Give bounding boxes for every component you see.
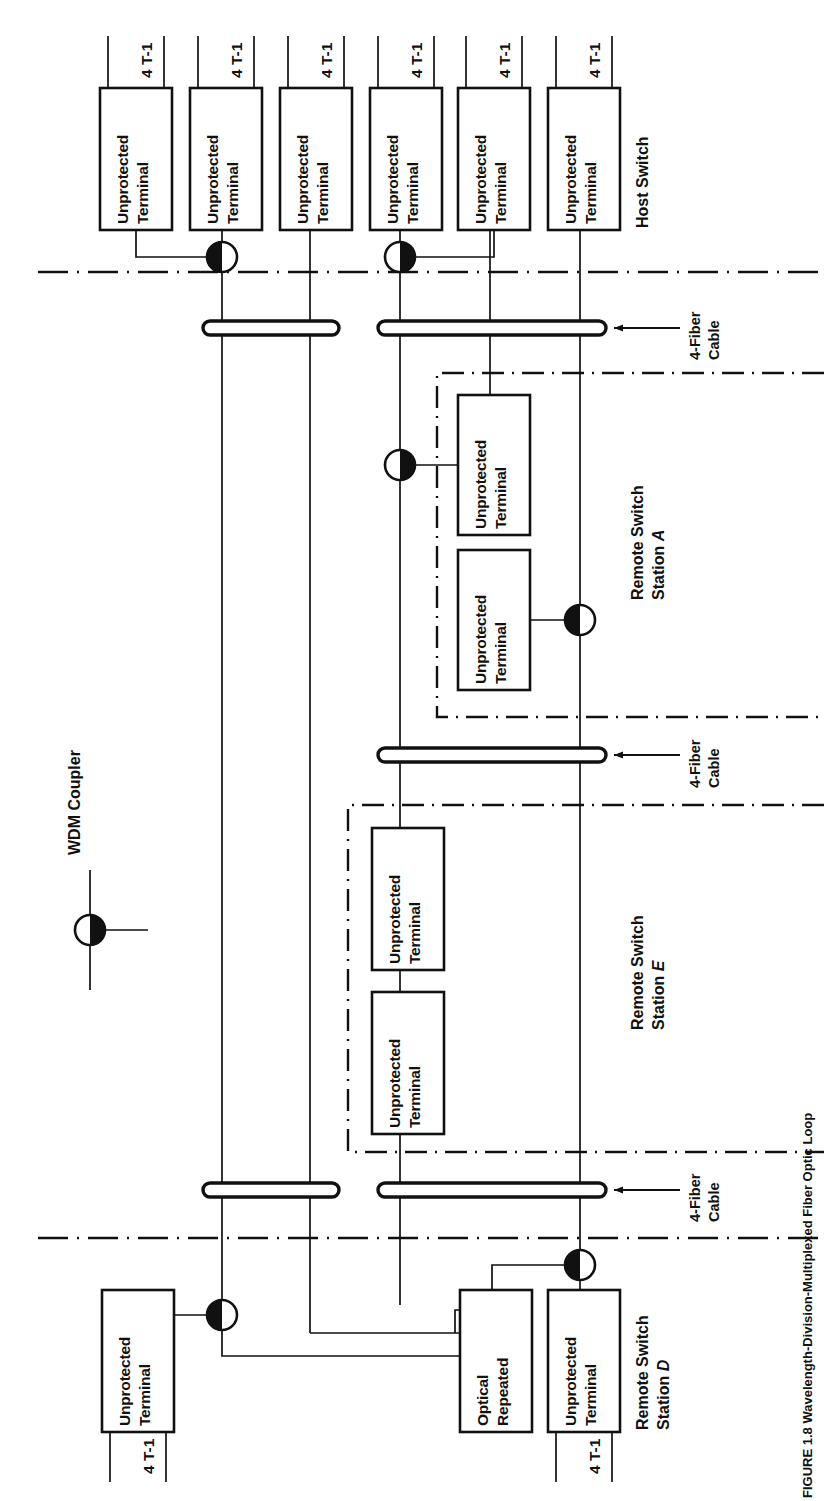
- cable-label-line1: 4-Fiber: [687, 1173, 703, 1222]
- t1-label: 4 T-1: [586, 42, 603, 78]
- terminal-label-line1: Unprotected: [472, 135, 489, 224]
- terminal-label-line1: Unprotected: [386, 875, 403, 964]
- station-label-letter: D: [655, 1359, 672, 1371]
- terminal-label-line1: Unprotected: [114, 135, 131, 224]
- cable-label-line2: Cable: [706, 749, 722, 789]
- terminal-box[interactable]: Unprotected Terminal: [458, 550, 530, 690]
- terminal-label-line2: Terminal: [406, 902, 423, 964]
- terminal-box[interactable]: Unprotected Terminal: [370, 88, 442, 230]
- terminal-label-line1: Unprotected: [384, 135, 401, 224]
- wdm-coupler[interactable]: [207, 1300, 237, 1330]
- terminal-box[interactable]: Unprotected Terminal: [102, 1290, 174, 1432]
- terminal-label-line2: Terminal: [404, 162, 421, 224]
- wdm-coupler[interactable]: [207, 242, 237, 272]
- terminal-label-line1: Unprotected: [386, 1039, 403, 1128]
- optical-repeater-box[interactable]: Optical Repeated: [460, 1290, 532, 1432]
- network-diagram: 4 T-1 4 T-1 4 T-1 4 T-1 4 T-1 4 T-1 Unpr…: [0, 0, 824, 1501]
- wdm-coupler[interactable]: [565, 1250, 595, 1280]
- terminal-box[interactable]: Unprotected Terminal: [548, 1290, 620, 1432]
- station-label-letter: A: [650, 530, 667, 543]
- cable-label-line2: Cable: [706, 1183, 722, 1223]
- terminal-label-line1: Unprotected: [472, 440, 489, 529]
- fiber-cable-pill[interactable]: [378, 748, 606, 762]
- terminal-label-line1: Unprotected: [562, 1337, 579, 1426]
- fiber-cable-pill[interactable]: [203, 1183, 339, 1197]
- terminal-label-line2: Terminal: [314, 162, 331, 224]
- terminal-label-line2: Terminal: [224, 162, 241, 224]
- terminal-box[interactable]: Unprotected Terminal: [372, 992, 444, 1134]
- terminal-label-line2: Terminal: [582, 1364, 599, 1426]
- fiber-cable-pill[interactable]: [203, 321, 339, 335]
- t1-label: 4 T-1: [140, 1438, 157, 1474]
- terminal-box[interactable]: Unprotected Terminal: [100, 88, 172, 230]
- terminal-box[interactable]: Unprotected Terminal: [190, 88, 262, 230]
- station-label-host: Host Switch: [634, 136, 651, 228]
- t1-label: 4 T-1: [496, 42, 513, 78]
- terminal-label-line1: Unprotected: [116, 1337, 133, 1426]
- station-label-prefix: Station: [650, 541, 667, 600]
- terminal-label-line2: Terminal: [136, 1364, 153, 1426]
- terminal-label-line2: Terminal: [134, 162, 151, 224]
- cable-label-line1: 4-Fiber: [687, 739, 703, 788]
- t1-label: 4 T-1: [586, 1438, 603, 1474]
- terminal-label-line2: Terminal: [406, 1066, 423, 1128]
- t1-label: 4 T-1: [318, 42, 335, 78]
- fiber-cable-pill[interactable]: [378, 321, 606, 335]
- figure-caption: FIGURE 1.8 Wavelength-Division-Multiplex…: [800, 1113, 815, 1498]
- terminal-box[interactable]: Unprotected Terminal: [458, 395, 530, 535]
- terminal-label-line1: Unprotected: [294, 135, 311, 224]
- terminal-label-line2: Terminal: [492, 622, 509, 684]
- terminal-label-line1: Unprotected: [472, 595, 489, 684]
- terminal-box[interactable]: Unprotected Terminal: [458, 88, 530, 230]
- legend-label-wdm-coupler: WDM Coupler: [66, 750, 83, 855]
- t1-label: 4 T-1: [408, 42, 425, 78]
- fiber-cable-pill[interactable]: [378, 1183, 606, 1197]
- terminal-box[interactable]: Unprotected Terminal: [548, 88, 620, 230]
- station-label-rss-e-line1: Remote Switch: [629, 915, 646, 1030]
- cable-label-line2: Cable: [706, 321, 722, 361]
- terminal-label-line1: Unprotected: [562, 135, 579, 224]
- figure-caption-text: FIGURE 1.8 Wavelength-Division-Multiplex…: [800, 1113, 815, 1498]
- optical-repeater-label-line1: Optical: [474, 1375, 491, 1426]
- station-label-rss-d-line2: Station D: [655, 1359, 672, 1430]
- t1-label: 4 T-1: [228, 42, 245, 78]
- t1-label: 4 T-1: [138, 42, 155, 78]
- station-label-rss-e-line2: Station E: [650, 959, 667, 1030]
- terminal-label-line2: Terminal: [492, 467, 509, 529]
- wdm-coupler[interactable]: [385, 242, 415, 272]
- cable-label-line1: 4-Fiber: [687, 311, 703, 360]
- terminal-box[interactable]: Unprotected Terminal: [372, 828, 444, 970]
- terminal-box[interactable]: Unprotected Terminal: [280, 88, 352, 230]
- terminal-label-line2: Terminal: [582, 162, 599, 224]
- terminal-label-line1: Unprotected: [204, 135, 221, 224]
- terminal-label-line2: Terminal: [492, 162, 509, 224]
- wdm-coupler-icon: [75, 915, 105, 945]
- figure-canvas: 4 T-1 4 T-1 4 T-1 4 T-1 4 T-1 4 T-1 Unpr…: [0, 0, 824, 1501]
- wdm-coupler[interactable]: [565, 605, 595, 635]
- station-label-rss-d-line1: Remote Switch: [634, 1315, 651, 1430]
- station-label-letter: E: [650, 959, 667, 971]
- optical-repeater-label-line2: Repeated: [494, 1358, 511, 1426]
- station-label-prefix: Station: [650, 971, 667, 1030]
- station-label-rss-a-line1: Remote Switch: [629, 485, 646, 600]
- wdm-coupler[interactable]: [385, 450, 415, 480]
- station-label-rss-a-line2: Station A: [650, 530, 667, 600]
- station-label-prefix: Station: [655, 1371, 672, 1430]
